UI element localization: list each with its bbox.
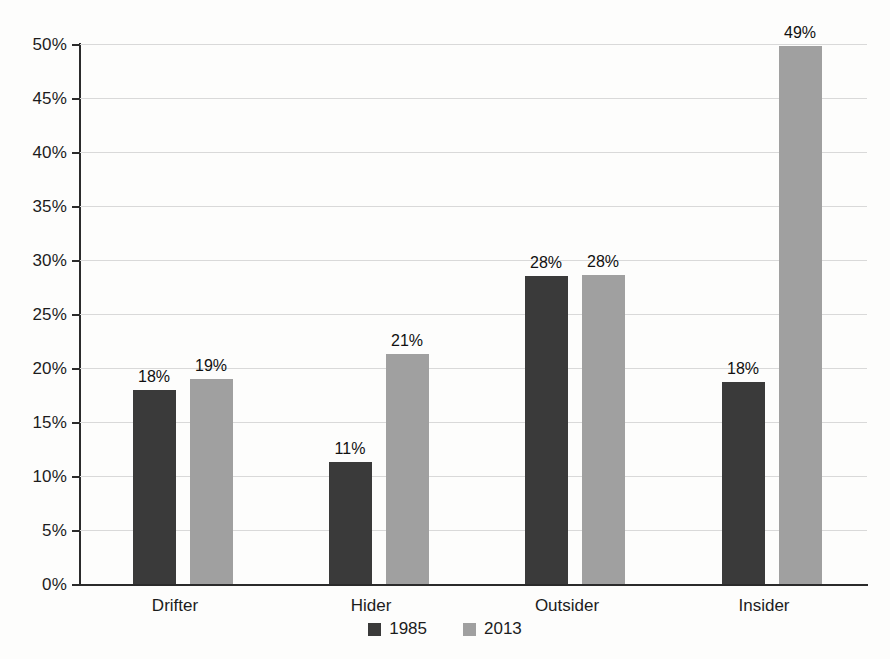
y-tick-label-50: 50% — [7, 35, 67, 55]
bar-label-insider-2013: 49% — [765, 24, 835, 42]
y-tick-label-40: 40% — [7, 143, 67, 163]
x-category-label-outsider: Outsider — [472, 596, 662, 616]
gridline-0-baseline — [79, 584, 868, 586]
legend-swatch-icon-1985 — [368, 623, 381, 636]
bar-label-outsider-2013: 28% — [568, 253, 638, 271]
bar-group-drifter: 18% 19% Drifter — [80, 44, 270, 584]
x-category-label-drifter: Drifter — [80, 596, 270, 616]
legend-label-2013: 2013 — [484, 619, 522, 639]
bar-label-hider-2013: 21% — [372, 332, 442, 350]
bar-group-insider: 18% 49% Insider — [669, 44, 859, 584]
x-category-label-insider: Insider — [669, 596, 859, 616]
y-tick-mark-5 — [72, 530, 80, 532]
bar-insider-2013[interactable] — [779, 46, 822, 584]
bar-label-insider-1985: 18% — [708, 360, 778, 378]
y-tick-mark-45 — [72, 98, 80, 100]
bar-drifter-2013[interactable] — [190, 379, 233, 584]
legend-item-1985[interactable]: 1985 — [368, 619, 427, 639]
plot-area: 18% 19% Drifter 11% 21% Hider 28% 28% Ou… — [80, 44, 867, 584]
bar-group-hider: 11% 21% Hider — [276, 44, 466, 584]
y-tick-mark-20 — [72, 368, 80, 370]
y-tick-label-35: 35% — [7, 197, 67, 217]
bar-insider-1985[interactable] — [722, 382, 765, 584]
y-tick-mark-35 — [72, 206, 80, 208]
bar-chart-figure: 50% 45% 40% 35% 30% 25% 20% 15% 10% 5% 0… — [0, 0, 890, 659]
bar-outsider-1985[interactable] — [525, 276, 568, 584]
y-tick-mark-40 — [72, 152, 80, 154]
bar-drifter-1985[interactable] — [133, 390, 176, 584]
y-tick-mark-15 — [72, 422, 80, 424]
y-tick-label-25: 25% — [7, 305, 67, 325]
y-tick-mark-50 — [72, 44, 80, 46]
legend-swatch-icon-2013 — [463, 623, 476, 636]
y-tick-label-30: 30% — [7, 251, 67, 271]
y-tick-mark-25 — [72, 314, 80, 316]
y-tick-label-10: 10% — [7, 467, 67, 487]
bar-outsider-2013[interactable] — [582, 275, 625, 584]
y-tick-mark-30 — [72, 260, 80, 262]
legend-label-1985: 1985 — [389, 619, 427, 639]
y-tick-label-0: 0% — [7, 575, 67, 595]
y-tick-label-5: 5% — [7, 521, 67, 541]
y-tick-label-15: 15% — [7, 413, 67, 433]
y-tick-label-20: 20% — [7, 359, 67, 379]
x-category-label-hider: Hider — [276, 596, 466, 616]
y-tick-mark-10 — [72, 476, 80, 478]
bar-group-outsider: 28% 28% Outsider — [472, 44, 662, 584]
chart-legend: 1985 2013 — [0, 619, 890, 639]
bar-hider-1985[interactable] — [329, 462, 372, 584]
bar-hider-2013[interactable] — [386, 354, 429, 584]
bar-label-drifter-2013: 19% — [176, 357, 246, 375]
y-tick-label-45: 45% — [7, 89, 67, 109]
bar-label-hider-1985: 11% — [315, 440, 385, 458]
legend-item-2013[interactable]: 2013 — [463, 619, 522, 639]
